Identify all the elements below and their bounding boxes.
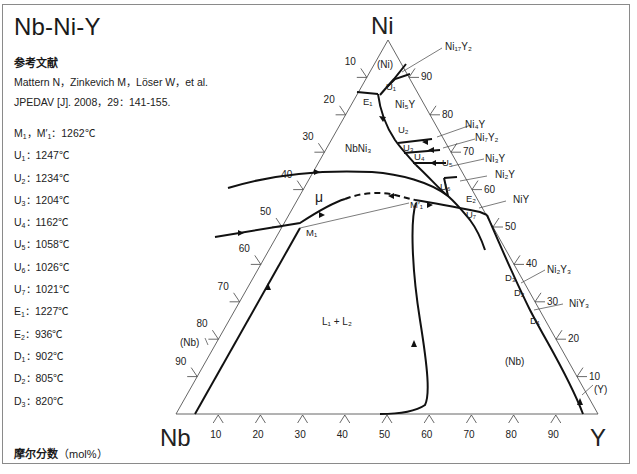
svg-text:60: 60 [421, 429, 433, 440]
svg-text:40: 40 [526, 258, 538, 269]
bottom-axis-ticks [213, 415, 561, 423]
svg-text:50: 50 [260, 206, 272, 217]
point-e1: E₁ [363, 96, 373, 107]
phase-nb-right: (Nb) [505, 356, 524, 367]
vertex-ni: Ni [371, 12, 394, 39]
svg-text:60: 60 [239, 243, 251, 254]
compound-ni3y: Ni₃Y [485, 153, 506, 164]
ternary-triangle [176, 40, 598, 414]
svg-text:90: 90 [421, 71, 433, 82]
univariant-curves [195, 64, 583, 414]
metastable-curve [345, 193, 415, 200]
svg-text:30: 30 [302, 131, 314, 142]
point-u4: U₄ [414, 151, 425, 162]
svg-text:20: 20 [324, 94, 336, 105]
point-e2: E₂ [466, 193, 476, 204]
point-d1: D₁ [530, 315, 540, 326]
svg-text:20: 20 [568, 333, 580, 344]
point-u7: U₇ [466, 209, 476, 220]
compound-ni4y: Ni₄Y [465, 119, 486, 130]
svg-text:10: 10 [210, 429, 222, 440]
svg-text:90: 90 [548, 429, 560, 440]
svg-text:30: 30 [295, 429, 307, 440]
phase-y: (Y) [594, 384, 607, 395]
svg-text:80: 80 [196, 318, 208, 329]
svg-text:20: 20 [252, 429, 264, 440]
svg-text:70: 70 [463, 429, 475, 440]
point-d3: D₃ [505, 272, 516, 283]
vertex-y: Y [590, 424, 606, 451]
point-m1-prime: M′₁ [410, 199, 423, 210]
invariant-point-labels: U₁ E₁ U₂ U₃ U₄ U₅ U₆ E₂ U₇ M₁ M′₁ D₃ D₂ … [306, 81, 540, 326]
compound-ni17y2: Ni₁₇Y₂ [445, 41, 472, 52]
compound-ni2y3: Ni₂Y₃ [547, 264, 571, 275]
ternary-liquidus-projection: Ni Nb Y 102030405060708090 9080706050403… [0, 0, 637, 474]
phase-labels: (Ni) Ni₅Y NbNi₃ μ L₁ + L₂ (Nb) (Nb) (Y) [180, 59, 607, 395]
svg-text:60: 60 [484, 184, 496, 195]
compound-niy3: NiY₃ [569, 298, 589, 309]
compound-ni2y: Ni₂Y [495, 169, 515, 180]
bottom-axis-labels: 102030405060708090 [210, 429, 559, 440]
point-u6: U₆ [440, 181, 451, 192]
compound-labels: Ni₁₇Y₂ Ni₄Y Ni₇Y₂ Ni₃Y Ni₂Y NiY Ni₂Y₃ Ni… [445, 41, 589, 309]
point-u5: U₅ [442, 157, 453, 168]
left-axis-ticks [187, 68, 367, 376]
phase-nbni3: NbNi₃ [345, 143, 371, 154]
svg-text:10: 10 [589, 371, 601, 382]
phase-mu: μ [315, 189, 323, 205]
svg-text:70: 70 [218, 281, 230, 292]
right-axis-ticks [409, 68, 587, 376]
point-u2: U₂ [398, 124, 409, 135]
point-u1: U₁ [386, 81, 396, 92]
phase-nb-left: (Nb) [180, 337, 199, 348]
svg-text:90: 90 [175, 356, 187, 367]
point-u3: U₃ [403, 142, 414, 153]
svg-text:50: 50 [379, 429, 391, 440]
point-d2: D₂ [514, 287, 525, 298]
compound-niy: NiY [513, 194, 529, 205]
vertex-nb: Nb [160, 424, 191, 451]
compound-ni7y2: Ni₇Y₂ [475, 132, 499, 143]
svg-text:50: 50 [505, 221, 517, 232]
point-m1: M₁ [306, 227, 317, 238]
phase-ni: (Ni) [377, 59, 393, 70]
svg-text:80: 80 [506, 429, 518, 440]
right-axis-labels: 908070605040302010 [421, 71, 601, 381]
svg-text:80: 80 [442, 109, 454, 120]
svg-text:70: 70 [463, 146, 475, 157]
svg-text:40: 40 [337, 429, 349, 440]
phase-ni5y: Ni₅Y [395, 99, 415, 110]
phase-l1l2: L₁ + L₂ [322, 316, 352, 327]
svg-text:10: 10 [345, 56, 357, 67]
